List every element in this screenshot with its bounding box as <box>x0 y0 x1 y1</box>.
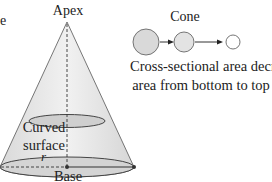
radius-end-dot <box>132 165 136 169</box>
arrow-icon <box>160 40 174 45</box>
cone-diagram: e Apex Cone Cross-sectional area decreas… <box>0 0 272 182</box>
large-cross-section-circle <box>133 29 159 55</box>
edge-text-fragment: e <box>0 14 6 28</box>
description-line-1: Cross-sectional area decreases in <box>130 59 272 74</box>
cone-title: Cone <box>163 10 207 24</box>
radius-label: r <box>41 150 46 163</box>
description-line-2: area from bottom to top <box>130 78 272 93</box>
small-cross-section-circle <box>226 35 240 49</box>
arrow-icon <box>195 40 223 45</box>
medium-cross-section-circle <box>174 32 194 52</box>
apex-label: Apex <box>50 4 86 18</box>
base-label: Base <box>48 169 88 182</box>
